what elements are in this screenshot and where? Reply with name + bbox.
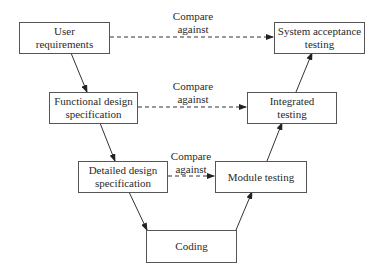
box-label-line: Module testing [228,171,294,184]
box-system-acceptance-testing: System acceptance testing [274,22,365,54]
box-coding: Coding [146,230,237,263]
box-label-line: Coding [175,240,207,253]
compare-label-line: Compare [163,80,223,93]
compare-label-bottom: Compare against [161,150,221,176]
box-functional-design-specification: Functional design specification [49,92,138,124]
box-label-line: User [54,25,75,38]
box-detailed-design-specification: Detailed design specification [78,161,168,193]
box-label-line: testing [277,108,306,121]
arrow-module-to-integrated [267,123,282,161]
compare-label-line: against [161,163,221,176]
compare-label-middle: Compare against [163,80,223,106]
arrow-functional-to-detailed [100,123,115,161]
box-label-line: specification [95,177,151,190]
arrow-coding-to-module [236,192,252,230]
box-label-line: Detailed design [89,164,158,177]
compare-label-line: Compare [163,10,223,23]
arrow-user-to-functional [71,53,87,92]
compare-label-top: Compare against [163,10,223,36]
box-label-line: Functional design [54,95,133,108]
arrow-detailed-to-coding [129,192,147,230]
box-user-requirements: User requirements [19,22,110,54]
arrow-integrated-to-system [296,53,312,92]
box-label-line: specification [65,108,121,121]
box-integrated-testing: Integrated testing [247,92,337,124]
box-label-line: System acceptance [278,25,361,38]
box-label-line: testing [305,38,334,51]
box-label-line: Integrated [270,95,315,108]
compare-label-line: Compare [161,150,221,163]
box-label-line: requirements [36,38,93,51]
compare-label-line: against [163,23,223,36]
compare-label-line: against [163,93,223,106]
box-module-testing: Module testing [215,161,307,193]
